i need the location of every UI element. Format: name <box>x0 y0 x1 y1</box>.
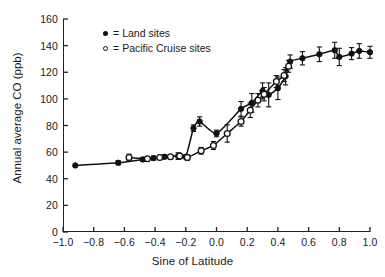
data-point-marker <box>255 97 261 103</box>
data-point-marker <box>168 154 174 160</box>
data-point-marker <box>184 155 190 161</box>
series-land-sites <box>73 42 373 168</box>
data-series-group <box>73 42 373 168</box>
x-tick-label: 0.2 <box>240 236 255 248</box>
data-point-marker <box>286 63 292 69</box>
legend-label: Land sites <box>122 27 170 39</box>
data-point-marker <box>247 107 253 113</box>
data-point-marker <box>300 56 305 61</box>
legend-label: Pacific Cruise sites <box>122 42 211 54</box>
x-tick-label: 1.0 <box>363 236 378 248</box>
x-tick-label: 0.8 <box>332 236 347 248</box>
data-point-marker <box>191 125 196 130</box>
x-tick-label: 0.0 <box>209 236 224 248</box>
data-point-marker <box>337 54 342 59</box>
data-point-marker <box>211 143 217 149</box>
legend-equals-sign: = <box>113 27 119 39</box>
data-point-marker <box>73 163 78 168</box>
data-point-marker <box>332 48 337 53</box>
data-point-marker <box>157 155 163 161</box>
x-tick-label: −0.2 <box>175 236 196 248</box>
data-point-marker <box>317 52 322 57</box>
open-circle-icon <box>98 46 112 51</box>
data-point-marker <box>197 119 202 124</box>
data-point-marker <box>177 153 183 159</box>
data-point-marker <box>198 148 204 154</box>
filled-circle-icon <box>98 31 112 36</box>
data-point-marker <box>357 48 362 53</box>
data-point-marker <box>238 119 244 125</box>
data-point-marker <box>238 106 243 111</box>
data-point-marker <box>349 51 354 56</box>
x-tick-label: 0.4 <box>270 236 285 248</box>
data-point-marker <box>116 160 121 165</box>
data-point-marker <box>273 79 279 85</box>
legend-entry: =Pacific Cruise sites <box>98 41 211 55</box>
series-pacific-cruise-sites <box>126 60 291 161</box>
x-axis-tick-labels: −1.0−0.8−0.6−0.4−0.20.00.20.40.60.81.0 <box>0 236 385 252</box>
data-point-marker <box>261 91 267 97</box>
x-tick-label: −0.4 <box>145 236 166 248</box>
legend-equals-sign: = <box>113 42 119 54</box>
x-tick-label: −0.8 <box>83 236 104 248</box>
x-tick-label: −0.6 <box>114 236 135 248</box>
x-tick-label: −1.0 <box>52 236 73 248</box>
data-point-marker <box>214 131 219 136</box>
x-tick-label: 0.6 <box>301 236 316 248</box>
chart-legend: =Land sites=Pacific Cruise sites <box>98 26 211 56</box>
data-point-marker <box>224 131 230 137</box>
data-point-marker <box>281 73 287 79</box>
legend-entry: =Land sites <box>98 26 211 40</box>
data-point-marker <box>367 50 372 55</box>
data-point-marker <box>126 155 132 161</box>
data-point-marker <box>145 156 151 162</box>
co-latitude-chart: 020406080100120140160 Annual average CO … <box>0 0 385 277</box>
x-axis-title: Sine of Latitude <box>0 255 385 267</box>
